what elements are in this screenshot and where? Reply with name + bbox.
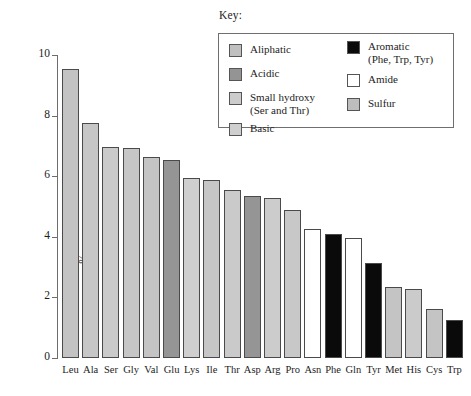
bar-group: Leu [62,55,79,358]
bar[interactable] [405,289,422,358]
bar-group: Lys [183,55,200,358]
y-axis-tick-label: 10 [28,47,50,59]
bar-group: Cys [426,55,443,358]
bar[interactable] [325,234,342,358]
legend-item-label: Aliphatic [250,43,291,56]
bar[interactable] [345,238,362,358]
bar-group: Pro [284,55,301,358]
bar-group: Glu [163,55,180,358]
plot-area: 0246810 % LeuAlaSerGlyValGluLysIleThrAsp… [58,55,462,358]
bar[interactable] [244,196,261,358]
bar-group: Phe [325,55,342,358]
bar[interactable] [264,198,281,358]
y-axis-tick-label: 2 [28,289,50,301]
bar[interactable] [102,147,119,358]
bar-series: LeuAlaSerGlyValGluLysIleThrAspArgProAsnP… [58,55,462,358]
y-axis-tick-label: 4 [28,229,50,241]
bar[interactable] [123,148,140,358]
bar-group: Gln [345,55,362,358]
key-title: Key: [219,9,242,21]
bar-group: Tyr [365,55,382,358]
bar[interactable] [82,123,99,358]
bar[interactable] [304,229,321,358]
bar-group: His [405,55,422,358]
bar-group: Ser [102,55,119,358]
y-axis-tick-label: 0 [28,350,50,362]
bar-group: Asn [304,55,321,358]
bar-group: Trp [446,55,463,358]
x-axis-tick-label: Trp [439,364,469,375]
bar-group: Asp [244,55,261,358]
legend-swatch [347,41,360,54]
bar[interactable] [203,180,220,358]
bar-group: Thr [224,55,241,358]
bar-group: Arg [264,55,281,358]
bar-group: Ala [82,55,99,358]
bar-group: Val [143,55,160,358]
bar-group: Gly [123,55,140,358]
bar[interactable] [183,178,200,358]
y-axis-tick-label: 8 [28,108,50,120]
bar[interactable] [143,157,160,358]
bar[interactable] [163,160,180,358]
bar[interactable] [62,69,79,358]
bar[interactable] [446,320,463,358]
y-axis-tick-label: 6 [28,168,50,180]
bar[interactable] [426,309,443,358]
bar[interactable] [224,190,241,358]
bar[interactable] [365,263,382,358]
bar-group: Ile [203,55,220,358]
bar[interactable] [385,287,402,358]
y-axis-tick [52,358,58,359]
bar[interactable] [284,210,301,358]
bar-group: Met [385,55,402,358]
chart-canvas: Key: AliphaticAcidicSmall hydroxy (Ser a… [0,0,471,396]
